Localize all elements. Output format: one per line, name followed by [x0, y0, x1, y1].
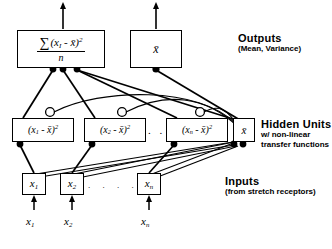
input-arrow-n	[146, 195, 152, 210]
outputs-caption-title: Outputs	[238, 32, 301, 44]
open-circle	[196, 108, 205, 117]
input-layer-ellipsis: . . . .	[88, 180, 139, 190]
outputs-caption-sub: (Mean, Variance)	[238, 44, 301, 54]
hidden-units-caption: Hidden Units w/ non-linear transfer func…	[261, 118, 331, 150]
input-signal-2-sub: 2	[69, 221, 72, 228]
hidden-2-exp: 2	[127, 123, 130, 130]
input-signal-1-sub: 1	[31, 221, 34, 228]
variance-output-box: ∑(xI - x̄)2 n	[17, 30, 105, 68]
output-arrow-variance	[60, 2, 66, 29]
input-1-sub: 1	[35, 183, 38, 190]
hidden-1-minus: -	[39, 124, 47, 135]
open-contact-circles	[46, 108, 205, 117]
hidden-n-minus: -	[193, 124, 201, 135]
input-unit-1-box: x1	[22, 173, 46, 195]
input-signal-label-2: x2	[64, 215, 72, 228]
hidden-1-exp: 2	[55, 123, 58, 130]
hidden-caption-sub-1: w/ non-linear	[261, 130, 331, 140]
output-arrow-mean	[153, 2, 159, 29]
input-signal-label-1: x1	[26, 215, 34, 228]
input-unit-n-box: xn	[137, 173, 161, 195]
input-arrow-1	[31, 195, 37, 210]
mean-output-label: x̄	[153, 43, 158, 55]
mean-output-box: x̄	[130, 30, 182, 68]
hidden-unit-mean-box: x̄	[233, 118, 255, 142]
outputs-caption: Outputs (Mean, Variance)	[238, 32, 301, 54]
input-signal-n-sub: n	[146, 221, 149, 228]
open-circle	[118, 108, 127, 117]
inputs-caption-title: Inputs	[225, 175, 316, 187]
variance-denominator: n	[37, 52, 84, 63]
hidden-unit-1-box: (x1 - x̄)2	[12, 118, 74, 142]
hidden-unit-n-box: (xn - x̄)2	[166, 118, 228, 142]
input-2-sub: 2	[73, 183, 76, 190]
input-n-sub: n	[150, 183, 153, 190]
open-circle	[46, 108, 55, 117]
variance-numerator-exp: 2	[79, 36, 83, 44]
hidden-caption-sub-2: transfer functions	[261, 140, 331, 150]
hidden-caption-title: Hidden Units	[261, 118, 331, 130]
inputs-caption-sub: (from stretch receptors)	[225, 187, 316, 197]
input-signal-label-n: xn	[141, 215, 149, 228]
inputs-caption: Inputs (from stretch receptors)	[225, 175, 316, 197]
input-unit-2-box: x2	[60, 173, 84, 195]
summation-symbol: ∑	[39, 35, 49, 50]
hidden-mean-label: x̄	[242, 125, 247, 136]
hidden-n-exp: 2	[209, 123, 212, 130]
hidden-unit-2-box: (x2 - x̄)2	[84, 118, 146, 142]
input-arrow-2	[69, 195, 75, 210]
hidden-2-minus: -	[111, 124, 119, 135]
network-diagram: ∑(xI - x̄)2 n x̄ Outputs (Mean, Variance…	[0, 0, 332, 249]
